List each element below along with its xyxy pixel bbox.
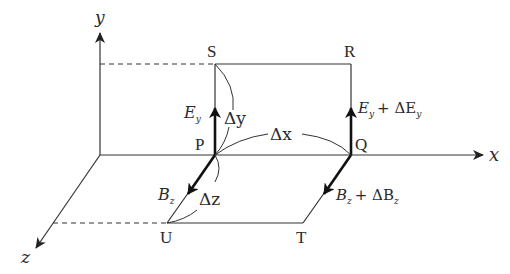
arc-dz-upper xyxy=(215,155,219,182)
arc-dy xyxy=(215,64,233,110)
z-axis-label: z xyxy=(20,247,31,267)
y-axis-label: y xyxy=(94,7,105,27)
loop-pqtu xyxy=(167,155,351,223)
point-label-r: R xyxy=(344,42,356,61)
delta-x-label: Δx xyxy=(270,124,292,144)
bz-label: Bz xyxy=(157,185,175,206)
axes xyxy=(36,33,483,248)
point-label-s: S xyxy=(207,42,216,61)
ey-label: Ey xyxy=(183,103,202,124)
delta-z-label: Δz xyxy=(199,189,220,209)
x-axis-label: x xyxy=(489,144,499,165)
field-loop-diagram: y x z S R P Q U T Δy Δx Δz Ey Ey+ ΔEy Bz… xyxy=(0,0,510,274)
z-axis xyxy=(36,155,100,248)
point-label-p: P xyxy=(195,135,204,154)
point-label-t: T xyxy=(296,228,307,247)
ey-plus-delta-label: Ey+ ΔEy xyxy=(357,99,422,119)
point-label-u: U xyxy=(160,228,172,247)
bz-plus-delta-label: Bz+ ΔBz xyxy=(335,186,399,206)
arc-dx-right xyxy=(302,134,351,155)
delta-y-label: Δy xyxy=(224,108,246,128)
point-label-q: Q xyxy=(355,135,367,154)
